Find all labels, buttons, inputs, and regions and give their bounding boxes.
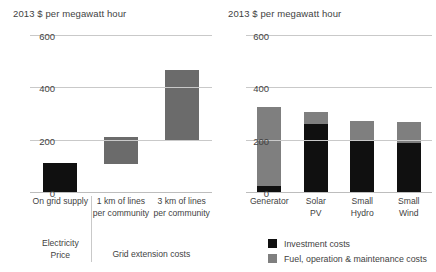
right-bars-group	[246, 36, 432, 193]
bar-slot	[30, 36, 91, 193]
bar-slot	[386, 36, 433, 193]
legend-swatch-icon	[268, 239, 277, 248]
legend-label: Investment costs	[284, 239, 350, 249]
bar-slot	[151, 36, 212, 193]
x-axis-label: SmallWind	[386, 196, 433, 219]
legend-item: Fuel, operation & maintenance costs	[268, 251, 427, 266]
group-label-electricity-price: ElectricityPrice	[30, 238, 91, 261]
gridline-600	[246, 35, 432, 36]
legend-swatch-icon	[268, 254, 277, 263]
left-group-labels: ElectricityPriceGrid extension costs	[30, 238, 212, 268]
right-chart-title: 2013 $ per megawatt hour	[228, 8, 341, 19]
x-axis-label: Generator	[246, 196, 293, 208]
left-chart-title: 2013 $ per megawatt hour	[13, 8, 126, 19]
stacked-bar-segment	[304, 112, 328, 124]
legend-item: Investment costs	[268, 236, 427, 251]
bar-slot	[293, 36, 340, 193]
group-divider	[91, 238, 92, 262]
stacked-bar-segment	[304, 124, 328, 193]
y-axis-tick-200: 200	[243, 135, 269, 146]
right-x-axis-labels: GeneratorSolarPVSmallHydroSmallWind	[246, 196, 432, 238]
y-axis-tick-600: 600	[243, 31, 269, 42]
x-axis-label: 3 km of lines per community	[151, 196, 212, 219]
right-plot-area: 0200400600	[246, 36, 432, 193]
x-axis-label: SolarPV	[293, 196, 340, 219]
x-axis-label: SmallHydro	[339, 196, 386, 219]
stacked-bar-segment	[350, 141, 374, 193]
x-axis-label: On grid supply	[30, 196, 91, 208]
gridline-200	[246, 140, 432, 141]
y-axis-tick-400: 400	[243, 83, 269, 94]
stacked-bar-segment	[350, 121, 374, 141]
stacked-bar-segment	[397, 143, 421, 193]
y-axis-tick-400: 400	[29, 83, 55, 94]
bar-slot	[246, 36, 293, 193]
y-axis-tick-200: 200	[29, 135, 55, 146]
left-bars-group	[30, 36, 212, 193]
group-label-grid-extension-costs: Grid extension costs	[91, 249, 212, 261]
bar-slot	[91, 36, 152, 193]
gridline-400	[30, 87, 212, 88]
chart-page: 2013 $ per megawatt hour 0200400600 On g…	[0, 0, 436, 272]
left-chart-panel: 2013 $ per megawatt hour 0200400600 On g…	[0, 0, 218, 272]
bar-slot	[339, 36, 386, 193]
left-x-axis-labels: On grid supply1 km of lines per communit…	[30, 196, 212, 238]
gridline-400	[246, 87, 432, 88]
gridline-0	[246, 192, 432, 193]
right-chart-panel: 2013 $ per megawatt hour 0200400600 Gene…	[218, 0, 436, 272]
x-axis-label: 1 km of lines per community	[91, 196, 152, 219]
group-divider	[91, 196, 92, 238]
gridline-600	[30, 35, 212, 36]
stacked-bar-segment	[257, 107, 281, 187]
y-axis-tick-600: 600	[29, 31, 55, 42]
gridline-200	[30, 140, 212, 141]
range-bar	[104, 137, 138, 164]
chart-legend: Investment costsFuel, operation & mainte…	[268, 236, 427, 266]
range-bar	[165, 70, 199, 141]
gridline-0	[30, 192, 212, 193]
legend-label: Fuel, operation & maintenance costs	[284, 254, 427, 264]
left-plot-area: 0200400600	[30, 36, 212, 193]
